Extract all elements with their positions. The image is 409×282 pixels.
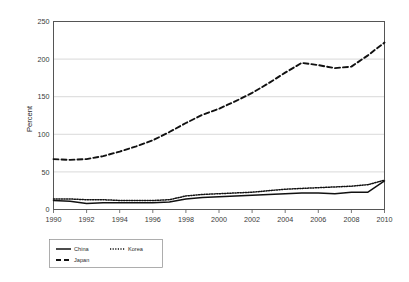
chart-container: 050100150200250 199019921994199619982000… <box>0 0 409 282</box>
y-tick-label: 100 <box>38 130 50 139</box>
x-tick-label: 2000 <box>211 215 227 224</box>
legend-frame <box>50 240 163 268</box>
legend-label-japan: Japan <box>74 257 89 263</box>
x-tick-label: 1998 <box>178 215 194 224</box>
x-tick-label: 1996 <box>145 215 161 224</box>
y-tick-label: 50 <box>42 168 50 177</box>
y-tick-label: 0 <box>46 205 50 214</box>
line-chart: 050100150200250 199019921994199619982000… <box>0 0 409 282</box>
y-tick-label: 200 <box>38 55 50 64</box>
legend-label-china: China <box>74 246 90 252</box>
x-tick-label: 2010 <box>377 215 393 224</box>
x-tick-label: 1994 <box>112 215 128 224</box>
chart-legend: ChinaKoreaJapan <box>50 240 163 268</box>
x-tick-label: 1992 <box>79 215 95 224</box>
x-tick-label: 2004 <box>277 215 293 224</box>
x-tick-label: 2008 <box>343 215 359 224</box>
legend-label-korea: Korea <box>128 246 144 252</box>
x-tick-label: 2006 <box>310 215 326 224</box>
y-axis-title: Percent <box>25 105 34 132</box>
x-tick-label: 2002 <box>244 215 260 224</box>
x-tick-label: 1990 <box>46 215 62 224</box>
y-tick-label: 150 <box>38 92 50 101</box>
y-tick-label: 250 <box>38 17 50 26</box>
